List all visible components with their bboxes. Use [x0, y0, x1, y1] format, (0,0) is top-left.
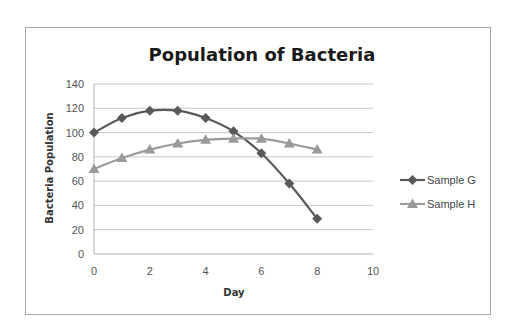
y-tick-label: 100	[66, 127, 84, 139]
legend: Sample GSample H	[400, 174, 476, 210]
diamond-marker-icon	[173, 106, 183, 116]
series-group	[89, 106, 323, 224]
chart-title: Population of Bacteria	[149, 44, 376, 65]
y-tick-label: 140	[66, 78, 84, 90]
legend-diamond-icon	[408, 175, 418, 185]
y-axis-title: Bacteria Population	[44, 112, 55, 223]
x-axis-ticks: 0246810	[91, 265, 379, 277]
line-chart: Population of Bacteria 02040608010012014…	[0, 0, 513, 334]
diamond-marker-icon	[117, 113, 127, 123]
y-tick-label: 40	[72, 199, 84, 211]
x-tick-label: 2	[147, 265, 153, 277]
y-tick-label: 20	[72, 224, 84, 236]
y-axis-ticks: 020406080100120140	[66, 78, 84, 260]
x-tick-label: 4	[203, 265, 209, 277]
y-tick-label: 120	[66, 102, 84, 114]
legend-item: Sample G	[400, 174, 476, 186]
x-tick-label: 8	[314, 265, 320, 277]
series-sample-g	[89, 106, 322, 224]
legend-label: Sample H	[427, 198, 475, 210]
x-tick-label: 0	[91, 265, 97, 277]
legend-item: Sample H	[400, 198, 475, 210]
diamond-marker-icon	[201, 113, 211, 123]
y-tick-label: 0	[78, 248, 84, 260]
x-axis-title: Day	[223, 287, 245, 298]
y-tick-label: 60	[72, 175, 84, 187]
gridlines	[94, 84, 373, 230]
legend-label: Sample G	[427, 174, 476, 186]
diamond-marker-icon	[89, 128, 99, 138]
y-tick-label: 80	[72, 151, 84, 163]
series-line	[94, 110, 317, 219]
x-tick-label: 6	[258, 265, 264, 277]
x-tick-label: 10	[367, 265, 379, 277]
series-sample-h	[89, 133, 323, 173]
diamond-marker-icon	[145, 106, 155, 116]
